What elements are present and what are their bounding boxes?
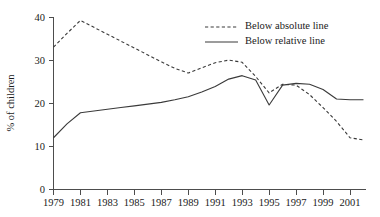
series-line-below-relative-line bbox=[54, 76, 364, 138]
y-axis-ticks: 010203040 bbox=[35, 12, 54, 196]
x-axis: 1979198119831985198719891991199319951997… bbox=[43, 190, 366, 209]
x-tick-label: 1999 bbox=[313, 197, 334, 208]
legend-label: Below relative line bbox=[245, 35, 325, 46]
x-tick-label: 1987 bbox=[151, 197, 172, 208]
y-tick-label: 30 bbox=[35, 55, 46, 66]
y-axis: 010203040 % of children bbox=[5, 12, 54, 196]
y-tick-label: 0 bbox=[40, 184, 45, 195]
x-tick-label: 1995 bbox=[259, 197, 280, 208]
x-tick-label: 1983 bbox=[97, 197, 118, 208]
y-tick-label: 20 bbox=[35, 98, 46, 109]
x-tick-label: 1991 bbox=[205, 197, 226, 208]
x-tick-label: 1981 bbox=[70, 197, 91, 208]
x-axis-ticks: 1979198119831985198719891991199319951997… bbox=[43, 190, 361, 209]
y-tick-label: 40 bbox=[35, 12, 46, 23]
x-tick-label: 2001 bbox=[340, 197, 361, 208]
legend-label: Below absolute line bbox=[245, 20, 329, 31]
x-tick-label: 1997 bbox=[286, 197, 307, 208]
x-tick-label: 1985 bbox=[124, 197, 145, 208]
chart-container: 010203040 % of children 1979198119831985… bbox=[0, 0, 380, 217]
y-tick-label: 10 bbox=[35, 141, 46, 152]
x-tick-label: 1979 bbox=[43, 197, 64, 208]
x-tick-label: 1993 bbox=[232, 197, 253, 208]
y-axis-title: % of children bbox=[5, 74, 16, 132]
line-chart: 010203040 % of children 1979198119831985… bbox=[0, 0, 380, 217]
x-tick-label: 1989 bbox=[178, 197, 199, 208]
chart-legend: Below absolute lineBelow relative line bbox=[205, 20, 329, 46]
